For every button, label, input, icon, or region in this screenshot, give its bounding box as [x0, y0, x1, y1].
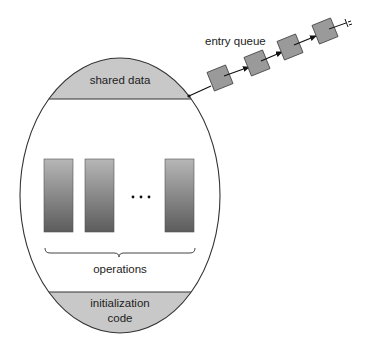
entry-queue-label: entry queue: [205, 35, 266, 47]
operation-box: [165, 159, 194, 232]
entry-queue: [187, 18, 352, 98]
operation-box: [85, 159, 114, 232]
shared-data-section: [0, 0, 370, 99]
operations-label: operations: [93, 263, 147, 275]
shared-data-label: shared data: [90, 74, 151, 86]
monitor-diagram: shared data operations initialization co…: [0, 0, 370, 349]
queue-node: [312, 18, 338, 44]
operation-box: [44, 159, 73, 232]
queue-node: [277, 34, 303, 60]
initialization-label-line1: initialization: [90, 297, 149, 309]
initialization-label-line2: code: [108, 312, 133, 324]
queue-node: [207, 65, 233, 91]
queue-node: [244, 50, 270, 76]
